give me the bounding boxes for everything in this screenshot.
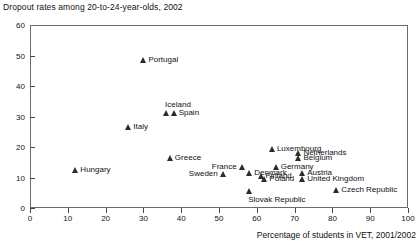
data-point-label: Netherlands bbox=[303, 149, 346, 157]
data-point-label: Sweden bbox=[189, 170, 218, 178]
y-tick-label: 0 bbox=[3, 204, 25, 213]
x-tick-mark bbox=[295, 208, 296, 213]
data-point-label: Spain bbox=[179, 109, 199, 117]
data-point-label: Hungary bbox=[80, 166, 110, 174]
data-point-marker bbox=[140, 57, 146, 63]
data-point-label: Poland bbox=[269, 175, 294, 183]
data-point-marker bbox=[167, 155, 173, 161]
data-point-label: France bbox=[212, 163, 237, 171]
x-tick-label: 80 bbox=[320, 214, 344, 223]
data-point-marker bbox=[295, 150, 301, 156]
data-point-marker bbox=[220, 171, 226, 177]
x-tick-label: 20 bbox=[94, 214, 118, 223]
data-point-label: Greece bbox=[175, 154, 201, 162]
data-point-marker bbox=[246, 188, 252, 194]
data-point-label: United Kingdom bbox=[307, 175, 364, 183]
x-tick-mark bbox=[219, 208, 220, 213]
x-tick-label: 100 bbox=[396, 214, 420, 223]
data-point-label: Slovak Republic bbox=[248, 196, 305, 204]
x-tick-mark bbox=[106, 208, 107, 213]
x-tick-label: 40 bbox=[169, 214, 193, 223]
data-point-marker bbox=[299, 170, 305, 176]
x-tick-label: 0 bbox=[18, 214, 42, 223]
data-point-marker bbox=[269, 146, 275, 152]
x-tick-label: 90 bbox=[358, 214, 382, 223]
x-tick-mark bbox=[257, 208, 258, 213]
data-point-marker bbox=[171, 110, 177, 116]
x-tick-mark bbox=[332, 208, 333, 213]
y-tick-label: 40 bbox=[3, 82, 25, 91]
x-tick-label: 10 bbox=[56, 214, 80, 223]
y-tick-mark bbox=[30, 147, 35, 148]
data-point-marker bbox=[333, 187, 339, 193]
y-tick-label: 60 bbox=[3, 21, 25, 30]
chart-title: Dropout rates among 20-to-24-year-olds, … bbox=[3, 2, 183, 12]
x-tick-label: 50 bbox=[207, 214, 231, 223]
data-point-marker bbox=[163, 110, 169, 116]
data-point-label: Czech Republic bbox=[341, 186, 397, 194]
x-tick-mark bbox=[370, 208, 371, 213]
data-point-marker bbox=[239, 164, 245, 170]
y-tick-mark bbox=[30, 56, 35, 57]
x-tick-mark bbox=[143, 208, 144, 213]
data-point-marker bbox=[261, 176, 267, 182]
y-tick-label: 20 bbox=[3, 143, 25, 152]
y-tick-label: 30 bbox=[3, 112, 25, 121]
data-point-marker bbox=[299, 176, 305, 182]
data-point-marker bbox=[72, 167, 78, 173]
x-tick-mark bbox=[30, 208, 31, 213]
y-tick-label: 10 bbox=[3, 173, 25, 182]
data-point-marker bbox=[273, 164, 279, 170]
x-tick-label: 30 bbox=[131, 214, 155, 223]
y-tick-mark bbox=[30, 178, 35, 179]
y-tick-mark bbox=[30, 117, 35, 118]
y-tick-label: 50 bbox=[3, 51, 25, 60]
x-tick-label: 70 bbox=[283, 214, 307, 223]
data-point-marker bbox=[246, 170, 252, 176]
scatter-chart-figure: Dropout rates among 20-to-24-year-olds, … bbox=[0, 0, 420, 246]
data-point-marker bbox=[125, 124, 131, 130]
x-tick-label: 60 bbox=[245, 214, 269, 223]
y-tick-mark bbox=[30, 86, 35, 87]
x-tick-mark bbox=[68, 208, 69, 213]
x-tick-mark bbox=[181, 208, 182, 213]
data-point-label: Italy bbox=[133, 123, 148, 131]
x-axis-title: Percentage of students in VET, 2001/2002 bbox=[257, 230, 416, 240]
data-point-label: Portugal bbox=[148, 56, 178, 64]
x-tick-mark bbox=[408, 208, 409, 213]
